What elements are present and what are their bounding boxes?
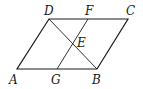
geometry-diagram: D F C E A G B bbox=[0, 0, 143, 89]
label-a: A bbox=[8, 73, 18, 87]
label-g: G bbox=[51, 73, 61, 87]
label-c: C bbox=[126, 4, 135, 18]
label-e: E bbox=[76, 36, 86, 50]
label-d: D bbox=[43, 4, 54, 18]
label-f: F bbox=[84, 4, 94, 18]
label-b: B bbox=[91, 73, 101, 87]
